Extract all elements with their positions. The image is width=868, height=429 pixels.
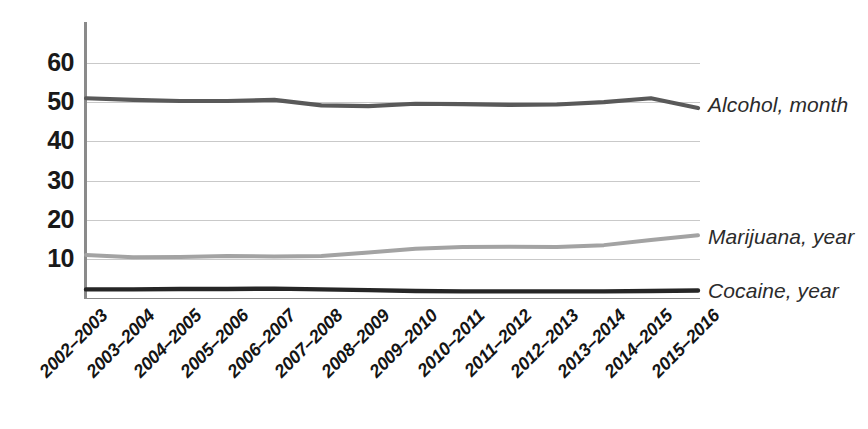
series-lines <box>86 98 698 291</box>
series-label-marijuana: Marijuana, year <box>708 226 854 247</box>
series-label-cocaine: Cocaine, year <box>708 280 839 301</box>
series-label-alcohol: Alcohol, month <box>708 94 848 115</box>
line-chart: 605040302010 2002–20032003–20042004–2005… <box>0 0 868 429</box>
series-line-alcohol <box>86 98 698 108</box>
gridlines <box>86 64 700 260</box>
series-line-marijuana <box>86 235 698 257</box>
plot-area <box>0 0 868 429</box>
series-line-cocaine <box>86 289 698 292</box>
